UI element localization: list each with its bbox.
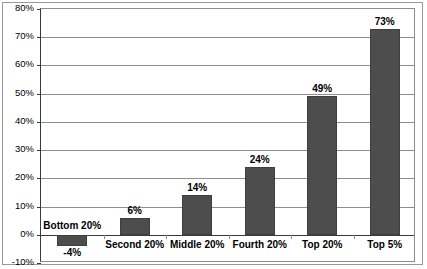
bar [182, 195, 212, 235]
x-axis-category-label: Second 20% [105, 240, 164, 250]
y-axis-tick-label: 10% [0, 201, 34, 211]
y-axis-tick [37, 65, 41, 66]
x-axis-category-label: Fourth 20% [233, 240, 287, 250]
y-axis-tick [37, 150, 41, 151]
bar [370, 29, 400, 235]
bar [245, 167, 275, 235]
y-axis-tick-label: 0% [0, 229, 34, 239]
x-axis-tick [166, 235, 167, 239]
x-axis-category-label: Middle 20% [170, 240, 224, 250]
y-axis-tick-label: 20% [0, 173, 34, 183]
y-axis-tick [37, 235, 41, 236]
bar-value-label: 14% [187, 183, 207, 193]
x-axis-category-label: Top 20% [302, 240, 342, 250]
y-axis-tick [37, 37, 41, 38]
y-axis-tick [37, 94, 41, 95]
bar-chart: 80%70%60%50%40%30%20%10%0%-10% -4%6%14%2… [0, 0, 427, 269]
x-axis-tick [354, 235, 355, 239]
y-axis-tick-label: 70% [0, 31, 34, 41]
x-axis-category-label: Bottom 20% [43, 221, 101, 231]
bar [120, 218, 150, 235]
y-axis-tick-label: 60% [0, 60, 34, 70]
y-axis-tick [37, 207, 41, 208]
y-axis-tick-label: 50% [0, 88, 34, 98]
y-axis-tick [37, 9, 41, 10]
plot-area: -4%6%14%24%49%73% Bottom 20%Second 20%Mi… [40, 8, 415, 262]
bar-value-label: 49% [312, 84, 332, 94]
gridline [41, 37, 414, 38]
bar [307, 96, 337, 234]
bar-value-label: 6% [128, 206, 142, 216]
bar [57, 235, 87, 246]
zero-baseline [41, 235, 414, 236]
x-axis-tick [291, 235, 292, 239]
y-axis-tick-label: 30% [0, 144, 34, 154]
y-axis-tick-label: 40% [0, 116, 34, 126]
gridline [41, 207, 414, 208]
x-axis-tick [229, 235, 230, 239]
y-axis-tick-label: -10% [0, 257, 34, 267]
gridline [41, 94, 414, 95]
gridline [41, 122, 414, 123]
y-axis-tick [37, 178, 41, 179]
gridline [41, 150, 414, 151]
y-axis-tick-label: 80% [0, 3, 34, 13]
gridline [41, 65, 414, 66]
gridline [41, 178, 414, 179]
y-axis-tick [37, 263, 41, 264]
y-axis-tick [37, 122, 41, 123]
bar-value-label: 73% [375, 17, 395, 27]
x-axis-category-label: Top 5% [367, 240, 402, 250]
bar-value-label: -4% [63, 248, 81, 258]
bar-value-label: 24% [250, 155, 270, 165]
